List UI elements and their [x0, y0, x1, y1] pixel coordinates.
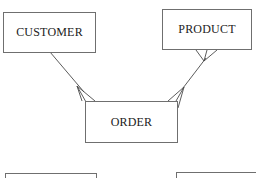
crows-foot-icon — [196, 50, 217, 61]
entity-label: CUSTOMER — [16, 25, 83, 40]
entity-label: ORDER — [111, 115, 153, 130]
entity-order[interactable]: ORDER — [85, 101, 178, 143]
product-order-connector — [183, 58, 206, 88]
entity-bottom-left[interactable] — [5, 173, 97, 178]
entity-bottom-right[interactable] — [176, 172, 256, 178]
entity-customer[interactable]: CUSTOMER — [3, 12, 96, 53]
entity-label: PRODUCT — [178, 22, 235, 37]
crows-foot-icon — [77, 86, 95, 102]
entity-product[interactable]: PRODUCT — [162, 9, 252, 50]
customer-order-connector — [50, 52, 84, 92]
